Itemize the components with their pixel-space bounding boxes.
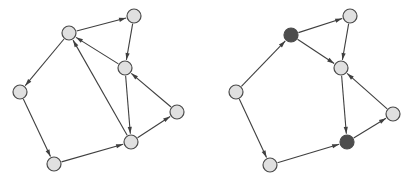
- left-graph-edge-a-b: [77, 18, 127, 31]
- right-graph-edge-d-e: [239, 99, 266, 157]
- left-graph-edge-e-f: [61, 144, 123, 162]
- left-graph-edge-f-g-arrowhead: [163, 116, 170, 122]
- right-graph-node-a[interactable]: [284, 28, 298, 42]
- left-graph-edge-a-d: [25, 39, 64, 86]
- left-graph-edge-a-b-arrowhead: [119, 18, 126, 22]
- edges-layer: [23, 18, 387, 163]
- left-graph-edge-c-a: [76, 37, 118, 64]
- left-graph-edge-d-e: [23, 99, 50, 157]
- left-graph-node-f[interactable]: [124, 135, 138, 149]
- left-graph-edge-d-e-arrowhead: [46, 149, 51, 156]
- right-graph-node-c[interactable]: [334, 61, 348, 75]
- right-graph-edge-e-f-arrowhead: [332, 144, 339, 148]
- right-graph-edge-c-f: [342, 76, 347, 134]
- right-graph-node-d[interactable]: [229, 85, 243, 99]
- right-graph-edge-e-f: [277, 144, 339, 162]
- left-graph-edge-f-a-arrowhead: [73, 40, 78, 47]
- directed-graph-figure: [0, 0, 416, 182]
- right-graph-node-e[interactable]: [263, 158, 277, 172]
- left-graph-edge-e-f-arrowhead: [116, 144, 123, 148]
- right-graph-node-g[interactable]: [386, 107, 400, 121]
- left-graph-node-g[interactable]: [170, 105, 184, 119]
- left-graph-node-c[interactable]: [118, 61, 132, 75]
- left-graph-edge-f-a: [73, 40, 127, 135]
- right-graph-edge-g-c: [347, 73, 387, 108]
- right-graph-node-f[interactable]: [340, 135, 354, 149]
- right-graph-edge-d-a: [241, 41, 285, 86]
- nodes-layer: [13, 9, 400, 172]
- left-graph-node-a[interactable]: [62, 26, 76, 40]
- right-graph-nodes: [229, 9, 400, 172]
- right-graph-edge-f-g-arrowhead: [379, 118, 386, 123]
- left-graph-node-d[interactable]: [13, 85, 27, 99]
- figure-canvas: [0, 0, 416, 182]
- right-graph-edge-a-c-arrowhead: [327, 58, 334, 64]
- right-graph-edges: [239, 19, 387, 163]
- left-graph-nodes: [13, 9, 184, 171]
- left-graph-edges: [23, 18, 171, 162]
- right-graph-edge-a-b-arrowhead: [335, 19, 342, 23]
- left-graph-node-b[interactable]: [127, 9, 141, 23]
- left-graph-edge-g-c: [131, 73, 171, 107]
- left-graph-node-e[interactable]: [47, 157, 61, 171]
- right-graph-edge-d-e-arrowhead: [262, 150, 267, 157]
- left-graph-edge-c-a-arrowhead: [76, 37, 83, 42]
- right-graph-node-b[interactable]: [343, 9, 357, 23]
- left-graph-edge-c-f: [126, 76, 131, 134]
